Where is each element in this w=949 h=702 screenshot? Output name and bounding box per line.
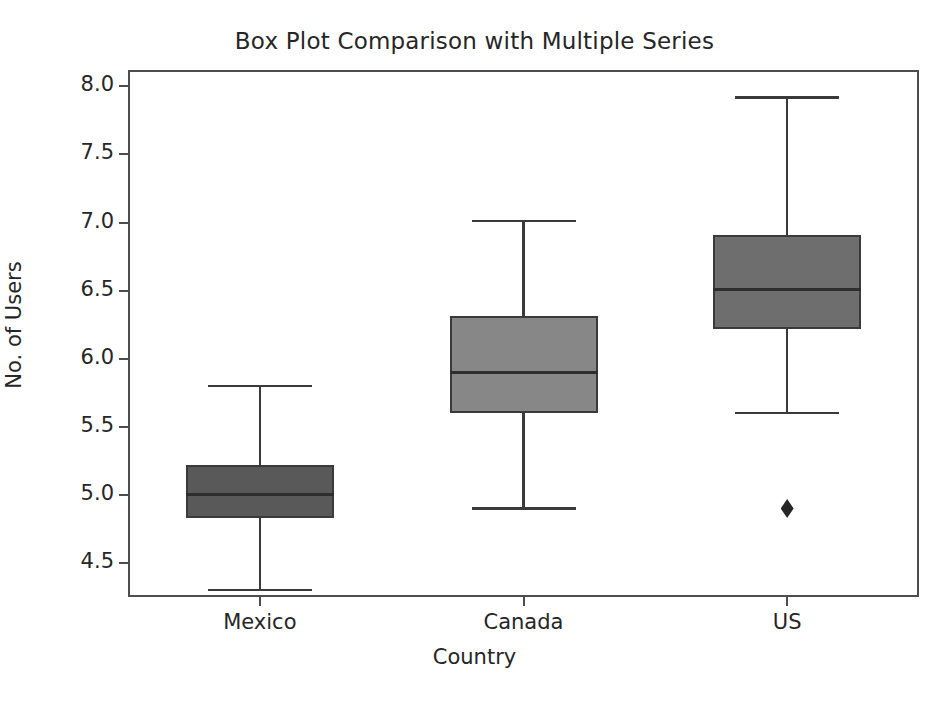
y-tick-mark xyxy=(119,426,128,428)
y-tick-label: 7.5 xyxy=(81,140,114,164)
cap-lower xyxy=(735,412,839,415)
x-tick-label: Canada xyxy=(434,610,614,634)
y-tick-mark xyxy=(119,358,128,360)
median-line xyxy=(186,493,334,496)
x-tick-label: Mexico xyxy=(170,610,350,634)
whisker-lower xyxy=(259,518,261,590)
y-tick-mark xyxy=(119,290,128,292)
box-rect xyxy=(186,465,334,518)
y-tick-mark xyxy=(119,85,128,87)
whisker-upper xyxy=(259,386,261,465)
y-tick-label: 8.0 xyxy=(81,72,114,96)
x-tick-mark xyxy=(786,597,788,606)
median-line xyxy=(713,288,861,291)
box-rect xyxy=(450,316,598,413)
cap-upper xyxy=(472,220,576,223)
cap-upper xyxy=(208,385,312,388)
x-tick-mark xyxy=(523,597,525,606)
chart-title: Box Plot Comparison with Multiple Series xyxy=(0,28,949,54)
y-tick-mark xyxy=(119,222,128,224)
whisker-lower xyxy=(786,329,788,413)
y-tick-label: 5.0 xyxy=(81,481,114,505)
y-tick-label: 5.5 xyxy=(81,413,114,437)
y-tick-label: 7.0 xyxy=(81,209,114,233)
y-tick-label: 6.0 xyxy=(81,345,114,369)
y-tick-mark xyxy=(119,153,128,155)
cap-lower xyxy=(472,507,576,510)
y-tick-label: 6.5 xyxy=(81,277,114,301)
box-rect xyxy=(713,235,861,329)
y-tick-label: 4.5 xyxy=(81,549,114,573)
y-tick-mark xyxy=(119,494,128,496)
median-line xyxy=(450,371,598,374)
cap-lower xyxy=(208,589,312,592)
x-axis-label: Country xyxy=(0,645,949,669)
x-tick-label: US xyxy=(697,610,877,634)
y-tick-mark xyxy=(119,562,128,564)
figure-canvas: Box Plot Comparison with Multiple Series… xyxy=(0,0,949,702)
whisker-upper xyxy=(522,221,524,316)
whisker-upper xyxy=(786,97,788,235)
cap-upper xyxy=(735,96,839,99)
x-tick-mark xyxy=(259,597,261,606)
whisker-lower xyxy=(522,413,524,508)
y-axis-label: No. of Users xyxy=(2,115,26,535)
